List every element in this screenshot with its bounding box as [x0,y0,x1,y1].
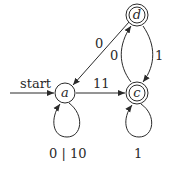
edge-a-to-c: 11 [76,76,125,93]
edge-label-a-a: 0 | 10 [49,146,86,161]
edge-label-d-a: 0 [95,36,103,51]
state-a: a [55,83,75,103]
start-label: start [20,76,52,91]
state-d-label: d [133,7,141,22]
edge-label-d-c: 1 [155,48,163,63]
state-a-label: a [61,85,69,100]
state-c: c [126,82,148,104]
edge-label-c-c: 1 [134,146,142,161]
automaton-diagram: start 11 0 0 1 0 | 10 1 a c [0,0,170,170]
state-d: d [126,4,148,26]
self-loop-a: 0 | 10 [49,103,86,161]
state-c-label: c [133,85,141,100]
edge-c-to-d: 0 [110,26,131,82]
edge-label-a-c: 11 [93,76,110,91]
start-arrow: start [10,76,54,93]
edge-d-to-c: 1 [143,26,163,82]
edge-label-c-d: 0 [110,48,118,63]
self-loop-c: 1 [126,104,152,161]
